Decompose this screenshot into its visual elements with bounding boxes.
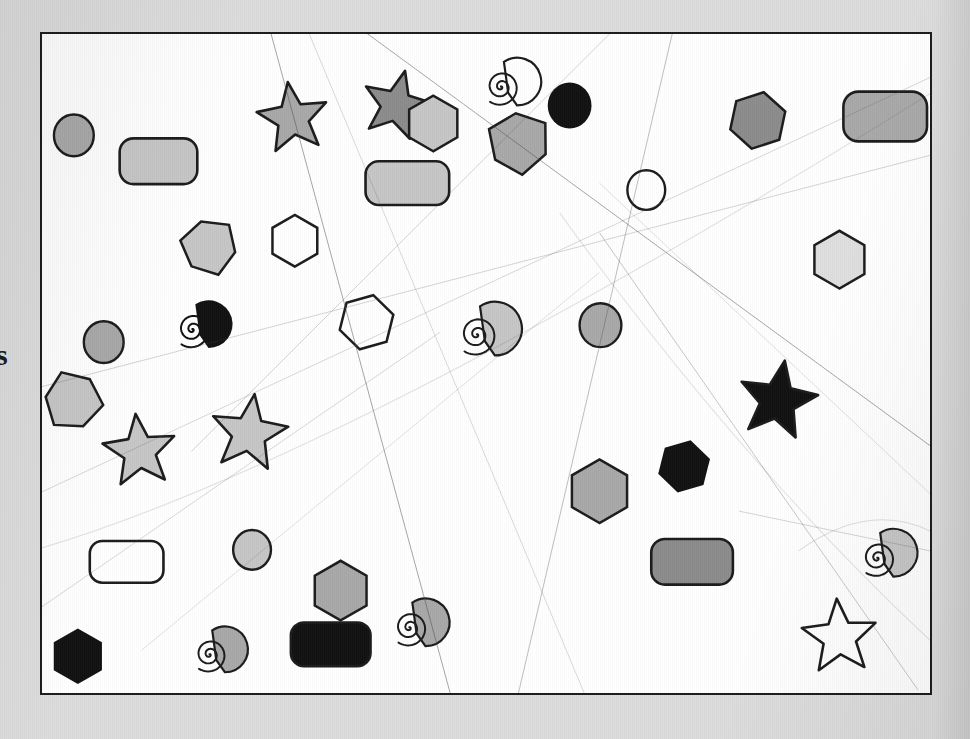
distractor-line bbox=[142, 273, 600, 651]
distractor-line bbox=[341, 34, 930, 451]
distractor-line bbox=[599, 233, 918, 690]
distractor-line bbox=[42, 332, 440, 620]
distractor-line bbox=[510, 34, 679, 693]
right-margin-shadow bbox=[932, 0, 970, 739]
shape-search-canvas[interactable] bbox=[40, 32, 932, 695]
distractor-line bbox=[739, 511, 930, 551]
page-edge-text: s bbox=[0, 338, 7, 372]
distractor-line bbox=[42, 153, 930, 392]
distractor-line bbox=[42, 74, 930, 501]
distractor-line-layer bbox=[42, 34, 930, 693]
distractor-line bbox=[263, 34, 460, 693]
distractor-crease bbox=[42, 94, 930, 551]
distractor-line bbox=[297, 34, 600, 693]
scanned-page: s bbox=[0, 0, 970, 739]
distractor-line bbox=[191, 34, 639, 451]
distractor-line bbox=[599, 183, 930, 501]
